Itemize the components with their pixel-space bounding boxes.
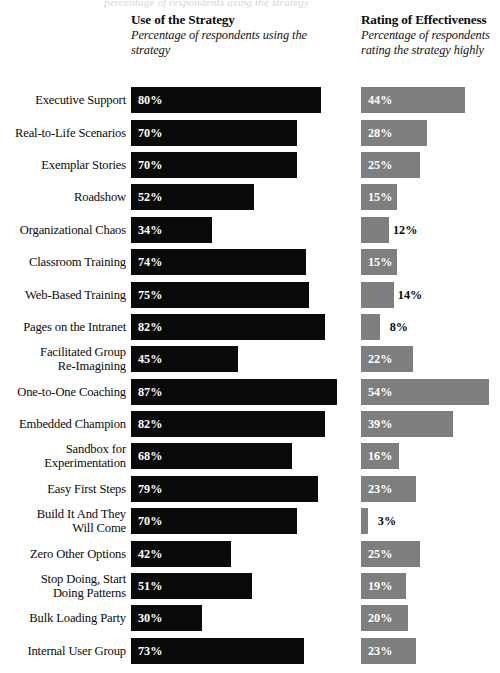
row-label: Exemplar Stories <box>0 158 126 172</box>
row-label: Embedded Champion <box>0 417 126 431</box>
row-label: Sandbox for Experimentation <box>0 442 126 470</box>
row-label: Executive Support <box>0 93 126 107</box>
chart-row: Facilitated Group Re-Imagining45%22% <box>0 343 500 375</box>
bar-value-label: 73% <box>138 643 162 658</box>
column-subtitle-rating: Percentage of respondents rating the str… <box>361 28 500 57</box>
bar-group-rating: 28% <box>361 120 427 146</box>
bar-group-rating: 8% <box>361 314 380 340</box>
chart-row: Classroom Training74%15% <box>0 246 500 278</box>
bar-use: 79% <box>131 476 318 502</box>
bar-rating: 20% <box>361 605 408 631</box>
bar-value-label: 75% <box>138 287 162 302</box>
bar-value-label: 70% <box>138 514 162 529</box>
bar-use: 70% <box>131 508 297 534</box>
row-label: Classroom Training <box>0 255 126 269</box>
bar-value-label: 25% <box>368 157 392 172</box>
clipped-caption: percentage of respondents using the stra… <box>104 0 434 8</box>
row-label: Stop Doing, Start Doing Patterns <box>0 572 126 600</box>
bar-use: 70% <box>131 152 297 178</box>
bar-use: 30% <box>131 605 202 631</box>
row-label: Organizational Chaos <box>0 223 126 237</box>
bar-value-label: 23% <box>368 481 392 496</box>
bar-rating: 19% <box>361 573 406 599</box>
bar-value-label: 20% <box>368 611 392 626</box>
bar-rating: 12% <box>361 217 389 243</box>
bar-value-label: 70% <box>138 125 162 140</box>
bar-group-use: 74% <box>131 249 306 275</box>
row-label: Real-to-Life Scenarios <box>0 126 126 140</box>
chart-rows: Executive Support80%44%Real-to-Life Scen… <box>0 84 500 667</box>
bar-group-use: 80% <box>131 87 321 113</box>
bar-use: 74% <box>131 249 306 275</box>
bar-group-rating: 12% <box>361 217 389 243</box>
bar-use: 45% <box>131 346 238 372</box>
bar-value-label: 22% <box>368 352 392 367</box>
bar-rating: 23% <box>361 638 416 664</box>
bar-value-label: 80% <box>138 93 162 108</box>
bar-rating: 15% <box>361 184 397 210</box>
column-subtitle-use: Percentage of respondents using the stra… <box>131 28 341 57</box>
bar-value-label: 87% <box>138 384 162 399</box>
bar-group-rating: 3% <box>361 508 368 534</box>
bar-group-rating: 25% <box>361 541 420 567</box>
bar-value-label: 3% <box>378 514 396 529</box>
column-header-rating: Rating of Effectiveness Percentage of re… <box>361 12 500 57</box>
bar-value-label: 44% <box>368 93 392 108</box>
bar-value-label: 82% <box>138 319 162 334</box>
bar-use: 42% <box>131 541 231 567</box>
bar-use: 70% <box>131 120 297 146</box>
row-label: One-to-One Coaching <box>0 385 126 399</box>
bar-use: 51% <box>131 573 252 599</box>
bar-group-rating: 23% <box>361 638 416 664</box>
bar-group-use: 79% <box>131 476 318 502</box>
bar-group-use: 51% <box>131 573 252 599</box>
row-label: Internal User Group <box>0 644 126 658</box>
row-label: Roadshow <box>0 190 126 204</box>
bar-value-label: 30% <box>138 611 162 626</box>
bar-use: 87% <box>131 379 337 405</box>
bar-rating: 54% <box>361 379 489 405</box>
bar-group-use: 70% <box>131 508 297 534</box>
bar-group-rating: 39% <box>361 411 453 437</box>
bar-group-use: 87% <box>131 379 337 405</box>
chart-row: Roadshow52%15% <box>0 181 500 213</box>
column-title-rating: Rating of Effectiveness <box>361 12 500 27</box>
row-label: Easy First Steps <box>0 482 126 496</box>
row-label: Bulk Loading Party <box>0 611 126 625</box>
bar-value-label: 12% <box>393 222 417 237</box>
bar-group-rating: 23% <box>361 476 416 502</box>
chart-row: Internal User Group73%23% <box>0 635 500 667</box>
bar-group-use: 42% <box>131 541 231 567</box>
bar-rating: 25% <box>361 152 420 178</box>
bar-value-label: 15% <box>368 255 392 270</box>
bar-use: 34% <box>131 217 212 243</box>
bar-group-rating: 16% <box>361 443 399 469</box>
column-title-use: Use of the Strategy <box>131 12 341 27</box>
bar-value-label: 15% <box>368 190 392 205</box>
bar-use: 82% <box>131 411 325 437</box>
bar-value-label: 19% <box>368 579 392 594</box>
bar-value-label: 42% <box>138 546 162 561</box>
bar-rating: 14% <box>361 282 394 308</box>
bar-group-use: 34% <box>131 217 212 243</box>
bar-use: 75% <box>131 282 309 308</box>
chart-row: One-to-One Coaching87%54% <box>0 376 500 408</box>
bar-group-rating: 20% <box>361 605 408 631</box>
bar-value-label: 8% <box>390 319 408 334</box>
bar-value-label: 82% <box>138 417 162 432</box>
bar-rating: 16% <box>361 443 399 469</box>
bar-group-rating: 22% <box>361 346 413 372</box>
bar-group-use: 82% <box>131 314 325 340</box>
chart-row: Build It And They Will Come70%3% <box>0 505 500 537</box>
bar-group-rating: 54% <box>361 379 489 405</box>
bar-value-label: 16% <box>368 449 392 464</box>
bar-group-rating: 44% <box>361 87 465 113</box>
bar-rating: 15% <box>361 249 397 275</box>
bar-rating: 28% <box>361 120 427 146</box>
bar-value-label: 74% <box>138 255 162 270</box>
bar-group-use: 45% <box>131 346 238 372</box>
bar-group-rating: 25% <box>361 152 420 178</box>
bar-value-label: 79% <box>138 481 162 496</box>
bar-rating: 25% <box>361 541 420 567</box>
chart-row: Easy First Steps79%23% <box>0 473 500 505</box>
